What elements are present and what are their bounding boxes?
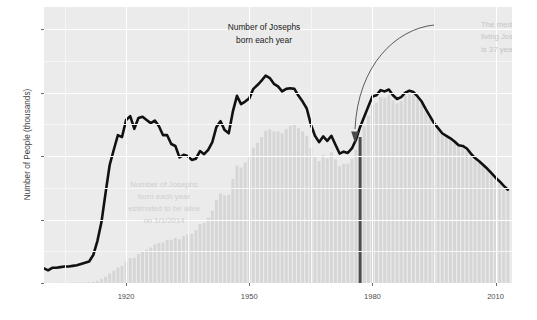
- x-tick-mark-1920: [126, 283, 127, 286]
- chart-root: Number of People (thousands) 010203040 N…: [0, 0, 537, 320]
- bar-1946: [231, 179, 234, 283]
- bar-1916: [108, 273, 111, 283]
- bar-1953: [260, 137, 263, 283]
- bar-1996: [437, 129, 440, 283]
- bar-1963: [301, 131, 304, 283]
- gridline-y-minor-35: [44, 61, 512, 62]
- median-line-3: is 37 years old: [481, 44, 512, 56]
- bar-1998: [445, 136, 448, 283]
- bar-1925: [145, 249, 148, 283]
- bar-1930: [166, 240, 169, 283]
- bar-1951: [252, 148, 255, 283]
- x-tick-mark-1950: [249, 283, 250, 286]
- bar-2012: [502, 187, 505, 283]
- bar-1986: [396, 103, 399, 283]
- bar-1960: [289, 126, 292, 283]
- bar-1993: [424, 110, 427, 283]
- median-marker-bar: [359, 137, 362, 283]
- gridline-x-1980: [372, 7, 373, 283]
- bar-1971: [334, 159, 337, 283]
- bar-1984: [387, 95, 390, 283]
- bar-1962: [297, 128, 300, 283]
- bar-1961: [293, 124, 296, 283]
- bar-1928: [157, 243, 160, 283]
- bar-1937: [194, 230, 197, 283]
- bar-1981: [375, 103, 378, 283]
- bar-1938: [199, 224, 202, 283]
- y-axis-title: Number of People (thousands): [23, 45, 32, 245]
- bar-1952: [256, 143, 259, 283]
- annotation-median-label: The median living Joseph is 37 years old: [481, 19, 512, 56]
- bar-1956: [272, 131, 275, 283]
- bar-1919: [121, 266, 124, 283]
- median-line-1: The median: [481, 19, 512, 31]
- bar-1949: [244, 162, 247, 283]
- bar-1924: [141, 251, 144, 283]
- bar-1974: [346, 164, 349, 283]
- gridline-y-30: [44, 93, 512, 94]
- gridline-y-minor-5: [44, 251, 512, 252]
- bar-1947: [235, 166, 238, 283]
- bar-1936: [190, 234, 193, 283]
- bar-2005: [474, 159, 477, 283]
- x-tick-label-1920: 1920: [96, 292, 156, 301]
- bar-1992: [420, 103, 423, 283]
- x-tick-label-1980: 1980: [342, 292, 402, 301]
- bar-1978: [363, 126, 366, 283]
- gridline-y-20: [44, 156, 512, 157]
- bar-1929: [162, 242, 165, 283]
- alive-line-4: on 1/1/2014: [104, 215, 224, 227]
- x-tick-mark-1980: [372, 283, 373, 286]
- bar-1926: [149, 247, 152, 283]
- births-line-1: Number of Josephs: [194, 21, 334, 34]
- bar-1955: [268, 129, 271, 283]
- bar-2008: [486, 169, 489, 283]
- bar-1939: [203, 223, 206, 283]
- bar-1931: [170, 240, 173, 283]
- gridline-x-minor-1935: [188, 7, 189, 283]
- bar-1954: [264, 131, 267, 283]
- annotation-alive-label: Number of Josephs born each year estimat…: [104, 179, 224, 227]
- bar-1970: [330, 152, 333, 283]
- bar-1999: [449, 139, 452, 283]
- bar-2004: [469, 154, 472, 283]
- bar-1932: [174, 238, 177, 283]
- bar-1987: [400, 101, 403, 283]
- y-tick-mark-0: [41, 283, 44, 284]
- bar-2000: [453, 142, 456, 283]
- bar-2007: [482, 166, 485, 283]
- plot-panel: Number of Josephs born each year estimat…: [44, 7, 512, 283]
- bar-1927: [153, 244, 156, 283]
- bar-1976: [355, 150, 358, 283]
- x-tick-label-1950: 1950: [219, 292, 279, 301]
- bar-1933: [178, 239, 181, 283]
- bar-1922: [133, 258, 136, 283]
- bar-2006: [478, 162, 481, 283]
- bar-1975: [350, 159, 353, 283]
- bar-1923: [137, 254, 140, 283]
- plot-area: [44, 7, 512, 283]
- bar-1957: [277, 131, 280, 283]
- bar-2003: [465, 149, 468, 283]
- bar-1934: [182, 236, 185, 283]
- bar-1994: [428, 117, 431, 283]
- bar-2001: [457, 146, 460, 283]
- bar-1973: [342, 164, 345, 283]
- bar-2009: [490, 174, 493, 283]
- bar-1972: [338, 166, 341, 283]
- gridline-x-minor-1965: [311, 7, 312, 283]
- gridline-y-minor-25: [44, 124, 512, 125]
- x-tick-label-2010: 2010: [466, 292, 526, 301]
- bar-1983: [383, 98, 386, 283]
- median-marker: [359, 137, 362, 283]
- gridline-x-minor-1905: [65, 7, 66, 283]
- gridline-x-minor-1995: [434, 7, 435, 283]
- alive-line-2: born each year: [104, 191, 224, 203]
- x-tick-mark-2010: [496, 283, 497, 286]
- annotation-births-label: Number of Josephs born each year: [194, 21, 334, 47]
- gridline-x-1920: [126, 7, 127, 283]
- bar-1991: [416, 98, 419, 283]
- bar-1921: [129, 258, 132, 283]
- bar-1945: [227, 195, 230, 283]
- bar-1959: [285, 129, 288, 283]
